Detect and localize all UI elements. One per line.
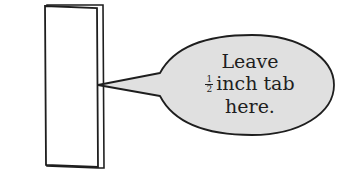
callout-line-3: here.	[170, 95, 330, 117]
callout-line-2-text: inch tab	[216, 72, 294, 94]
fraction-numerator: 1	[205, 75, 213, 85]
foldable-diagram: Leave 1 2 inch tab here.	[0, 0, 345, 177]
folded-paper	[45, 5, 104, 168]
callout-text: Leave 1 2 inch tab here.	[170, 50, 330, 117]
callout-line-2: 1 2 inch tab	[170, 72, 330, 95]
paper-front-panel	[45, 6, 98, 167]
fraction-denominator: 2	[205, 85, 213, 94]
half-fraction: 1 2	[205, 75, 213, 94]
callout-line-1: Leave	[170, 50, 330, 72]
